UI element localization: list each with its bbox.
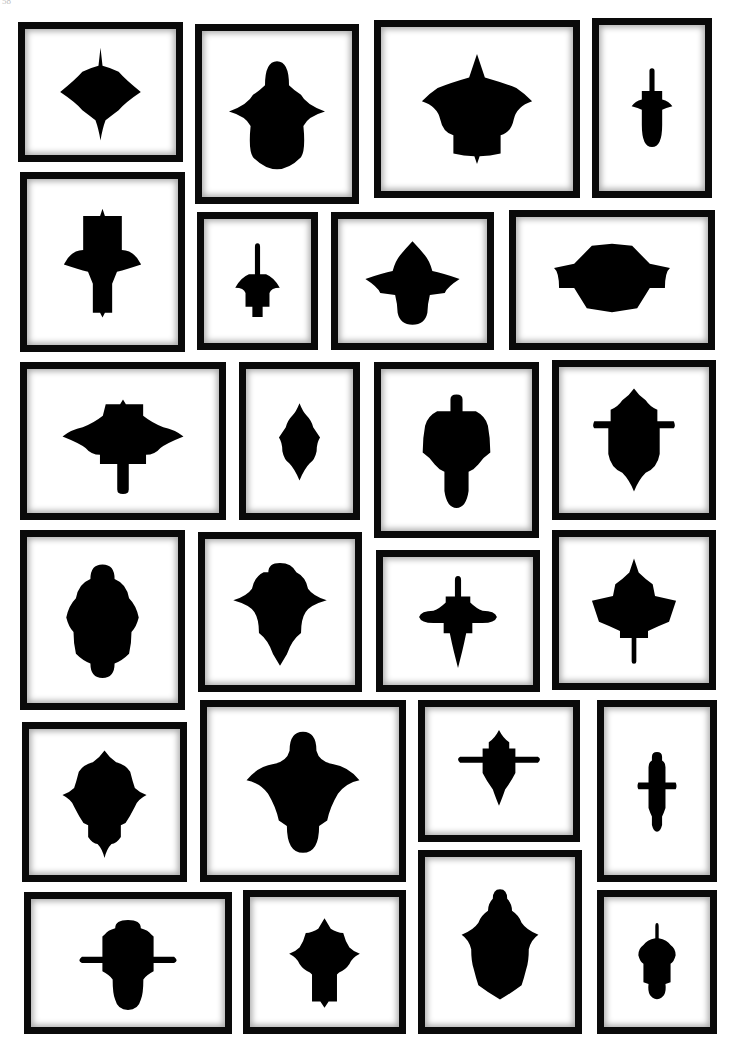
silhouette-frame-23 [418,850,582,1034]
cross-block-silhouette-icon [27,179,178,345]
page-number: 58 [2,0,11,6]
silhouette-frame-13 [20,530,185,710]
column-bar-silhouette-icon [604,707,710,875]
stem-wing-point-silhouette-icon [383,557,533,685]
stem-urn-silhouette-icon [204,219,311,343]
spired-kite-stem-silhouette-icon [559,537,709,683]
silhouette-frame-1 [18,22,183,162]
silhouette-frame-9 [20,362,226,520]
spired-cross-silhouette-icon [250,897,399,1027]
dome-cross-bar-silhouette-icon [31,899,225,1027]
silhouette-frame-7 [331,212,494,350]
winged-point-silhouette-icon [205,539,355,685]
silhouette-frame-16 [552,530,716,690]
silhouette-frame-21 [24,892,232,1034]
cusped-cross-bar-silhouette-icon [425,707,573,835]
dome-wings-silhouette-icon [207,707,399,875]
cusped-shield-silhouette-icon [425,857,575,1027]
silhouette-frame-10 [239,362,360,520]
silhouette-frame-17 [22,722,187,882]
silhouette-frame-8 [509,210,715,350]
silhouette-frame-18 [200,700,406,882]
stem-acorn-small-silhouette-icon [604,897,710,1027]
lobed-dome-silhouette-icon [27,537,178,703]
cusped-cross-silhouette-icon [338,219,487,343]
stem-acorn-silhouette-icon [599,25,705,191]
silhouette-frame-5 [20,172,185,352]
silhouette-frame-11 [374,362,539,538]
cusped-shield-bar-silhouette-icon [559,367,709,513]
silhouette-frame-6 [197,212,318,350]
silhouette-frame-2 [195,24,359,204]
silhouette-frame-19 [418,700,580,842]
silhouette-frame-24 [597,890,717,1034]
silhouette-frame-12 [552,360,716,520]
silhouette-frame-4 [592,18,712,198]
silhouette-frame-22 [243,890,406,1034]
cusped-lobed-oval-silhouette-icon [25,29,176,155]
cusped-urn-point-silhouette-icon [29,729,180,875]
silhouette-frame-3 [374,20,580,198]
silhouette-frame-15 [376,550,540,692]
silhouette-frame-14 [198,532,362,692]
spired-pagoda-silhouette-icon [381,27,573,191]
silhouette-frame-20 [597,700,717,882]
cusped-lancet-silhouette-icon [246,369,353,513]
stem-bell-teardrop-silhouette-icon [381,369,532,531]
bell-dome-silhouette-icon [202,31,352,197]
octagon-band-silhouette-icon [516,217,708,343]
pagoda-stem-down-silhouette-icon [27,369,219,513]
